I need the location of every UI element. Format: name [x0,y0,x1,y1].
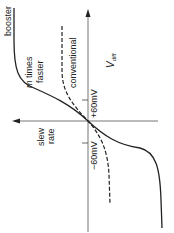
rate-label: rate [46,128,56,144]
minus-60mv-label: −60mV [89,141,99,170]
plus-60mv-label: +60mV [89,89,99,118]
times-text: times [24,56,34,81]
m-times-faster-label: m times [24,56,34,88]
conventional-label: conventional [68,37,78,88]
vdiff-subscript: diff [111,53,117,61]
vdiff-axis-arrow-icon [86,9,91,17]
faster-label: faster [35,60,45,83]
slew-rate-axis-arrow-icon [12,119,20,124]
booster-label: booster [3,6,13,36]
slew-rate-diagram: booster m times faster conventional Vdif… [0,0,174,233]
slew-label: slew [36,127,46,146]
vdiff-axis-label: Vdiff [105,53,117,68]
